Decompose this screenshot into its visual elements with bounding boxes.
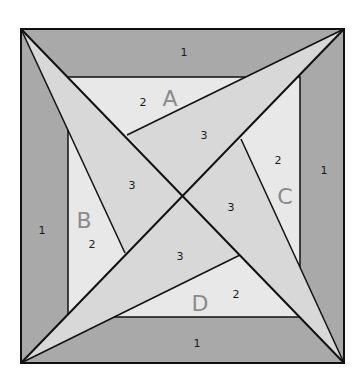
section-letter-b: B [76,208,91,233]
piece-label-b3: 3 [129,179,136,192]
band-label-left: 1 [39,224,46,237]
quilt-block-diagram: 1 1 1 1 A B C D 2 2 2 2 3 3 3 3 [0,0,364,385]
band-label-top: 1 [181,46,188,59]
piece-label-c2: 2 [275,154,282,167]
piece-label-c3: 3 [228,201,235,214]
section-letter-a: A [162,86,177,111]
piece-label-b2: 2 [89,238,96,251]
piece-label-a3: 3 [201,129,208,142]
piece-label-d2: 2 [233,288,240,301]
band-label-right: 1 [321,164,328,177]
piece-label-a2: 2 [140,96,147,109]
section-letter-d: D [192,291,209,316]
piece-label-d3: 3 [177,250,184,263]
section-letter-c: C [277,184,292,209]
band-label-bottom: 1 [194,337,201,350]
